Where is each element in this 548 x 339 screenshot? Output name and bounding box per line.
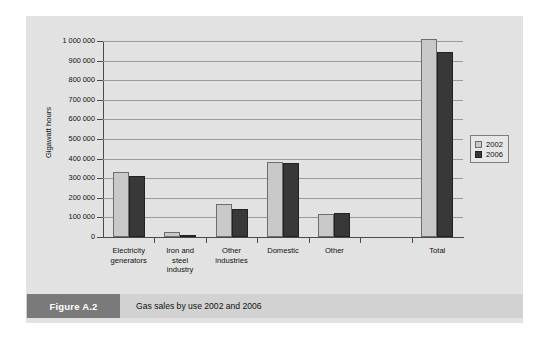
x-axis-category-label: Otherindustries bbox=[206, 246, 257, 265]
bar-2006 bbox=[283, 163, 299, 237]
x-axis-tick-mark bbox=[154, 238, 155, 243]
y-axis-tick-label: 1 000 000 bbox=[63, 37, 95, 45]
gridline bbox=[103, 41, 463, 42]
gridline bbox=[103, 61, 463, 62]
gridline bbox=[103, 139, 463, 140]
chart-legend: 2002 2006 bbox=[470, 135, 509, 163]
bar-2006 bbox=[129, 176, 145, 237]
x-axis-line bbox=[103, 237, 464, 238]
bar-2006 bbox=[437, 52, 453, 237]
bar-2002 bbox=[421, 39, 437, 237]
y-axis-tick-mark bbox=[97, 41, 103, 42]
gridline bbox=[103, 159, 463, 160]
legend-item-2006: 2006 bbox=[475, 149, 503, 159]
y-axis-tick-mark bbox=[97, 119, 103, 120]
bar-2002 bbox=[113, 172, 129, 237]
bar-2006 bbox=[232, 209, 248, 237]
bar-2002 bbox=[164, 232, 180, 237]
x-axis-tick-mark bbox=[360, 238, 361, 243]
plot-area bbox=[103, 41, 463, 237]
y-axis-title: Gigawatt hours bbox=[44, 93, 53, 173]
gridline bbox=[103, 80, 463, 81]
legend-label-2006: 2006 bbox=[486, 150, 503, 159]
legend-swatch-2002-icon bbox=[475, 141, 482, 148]
figure-panel: 1 000 000900 000800 000700 000600 000500… bbox=[26, 16, 523, 323]
y-axis-tick-label: 500 000 bbox=[69, 135, 95, 143]
y-axis-tick-label: 700 000 bbox=[69, 96, 95, 104]
figure-number-badge: Figure A.2 bbox=[27, 294, 120, 318]
x-axis-tick-mark bbox=[412, 238, 413, 243]
figure-caption-bar: Figure A.2 Gas sales by use 2002 and 200… bbox=[26, 294, 523, 318]
y-axis-tick-label: 600 000 bbox=[69, 115, 95, 123]
legend-label-2002: 2002 bbox=[486, 140, 503, 149]
figure-number-text: Figure A.2 bbox=[49, 301, 97, 312]
x-axis-category-label: Domestic bbox=[257, 246, 308, 256]
y-axis-tick-label: 200 000 bbox=[69, 194, 95, 202]
figure-caption-text: Gas sales by use 2002 and 2006 bbox=[136, 294, 262, 318]
x-axis-tick-mark bbox=[206, 238, 207, 243]
chart-area: 1 000 000900 000800 000700 000600 000500… bbox=[26, 16, 523, 286]
bar-2006 bbox=[334, 213, 350, 237]
bar-2002 bbox=[216, 204, 232, 237]
y-axis-tick-label: 100 000 bbox=[69, 213, 95, 221]
y-axis-tick-label: 900 000 bbox=[69, 57, 95, 65]
x-axis-category-label: Total bbox=[412, 246, 463, 256]
y-axis-tick-label: 400 000 bbox=[69, 155, 95, 163]
y-axis-tick-mark bbox=[97, 61, 103, 62]
x-axis-tick-mark bbox=[309, 238, 310, 243]
y-axis-tick-mark bbox=[97, 237, 103, 238]
y-axis-tick-label: 300 000 bbox=[69, 174, 95, 182]
y-axis-tick-mark bbox=[97, 198, 103, 199]
y-axis-tick-mark bbox=[97, 100, 103, 101]
y-axis-tick-label: 800 000 bbox=[69, 76, 95, 84]
x-axis-category-label: Other bbox=[309, 246, 360, 256]
gridline bbox=[103, 119, 463, 120]
figure-page: 1 000 000900 000800 000700 000600 000500… bbox=[0, 0, 548, 339]
y-axis-tick-mark bbox=[97, 217, 103, 218]
x-axis-category-label: Electricitygenerators bbox=[103, 246, 154, 265]
legend-item-2002: 2002 bbox=[475, 139, 503, 149]
y-axis-tick-mark bbox=[97, 159, 103, 160]
y-axis-tick-mark bbox=[97, 139, 103, 140]
x-axis-tick-mark bbox=[257, 238, 258, 243]
gridline bbox=[103, 100, 463, 101]
bar-2002 bbox=[318, 214, 334, 237]
y-axis-tick-mark bbox=[97, 178, 103, 179]
legend-swatch-2006-icon bbox=[475, 151, 482, 158]
y-axis-tick-mark bbox=[97, 80, 103, 81]
bar-2006 bbox=[180, 235, 196, 237]
bar-2002 bbox=[267, 162, 283, 237]
y-axis-tick-labels: 1 000 000900 000800 000700 000600 000500… bbox=[26, 16, 95, 286]
x-axis-category-label: Iron andsteelindustry bbox=[154, 246, 205, 275]
y-axis-tick-label: 0 bbox=[91, 233, 95, 241]
